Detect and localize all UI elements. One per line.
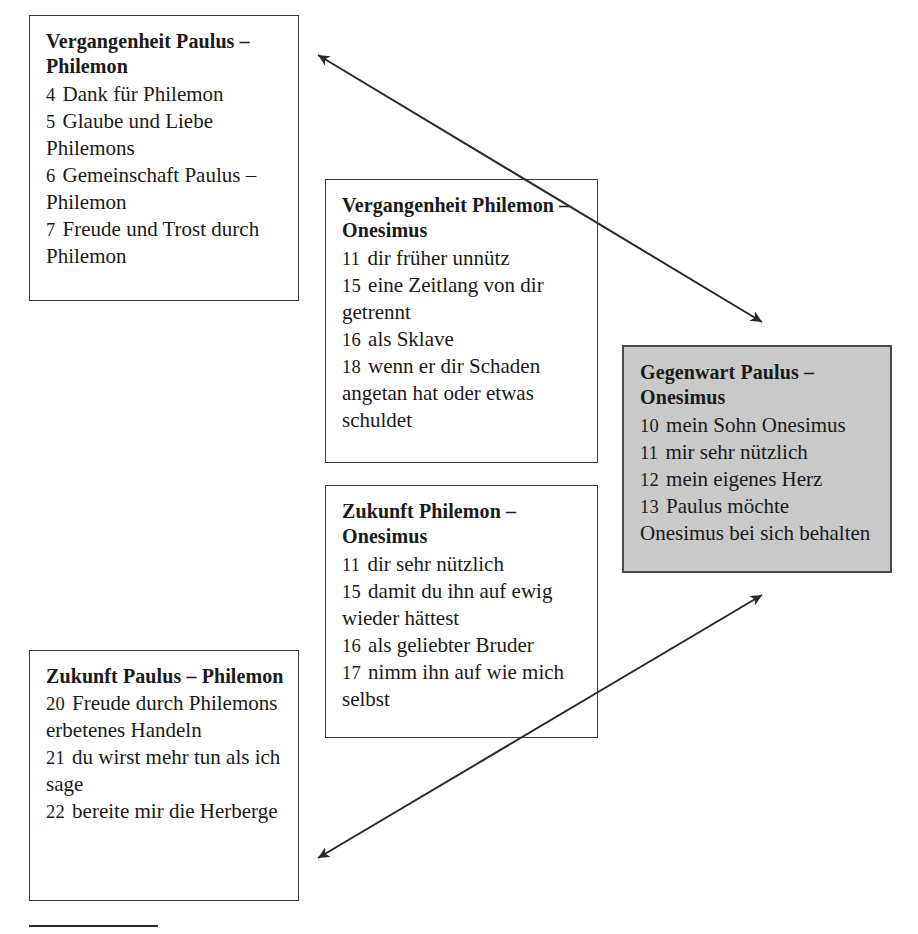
- list-item: 16als Sklave: [342, 326, 583, 353]
- verse-text: Paulus möchte Onesimus bei sich behalten: [640, 494, 870, 545]
- box-present-paulus-onesimus: Gegenwart Paulus – Onesimus 10mein Sohn …: [622, 345, 892, 573]
- verse-text: dir sehr nützlich: [367, 552, 503, 576]
- box-title: Gegenwart Paulus – Onesimus: [640, 360, 876, 411]
- verse-number: 15: [342, 582, 368, 602]
- list-item: 15eine Zeitlang von dir getrennt: [342, 272, 583, 326]
- verse-text: Dank für Philemon: [63, 82, 224, 106]
- box-entry-list: 20Freude durch Philemons erbetenes Hande…: [46, 690, 284, 825]
- verse-number: 7: [46, 220, 63, 240]
- verse-text: Freude durch Philemons erbetenes Handeln: [46, 691, 277, 742]
- list-item: 11mir sehr nützlich: [640, 439, 876, 466]
- list-item: 5Glaube und Liebe Philemons: [46, 108, 284, 162]
- verse-text: mein Sohn Onesimus: [666, 413, 846, 437]
- verse-text: Glaube und Liebe Philemons: [46, 109, 213, 160]
- verse-number: 13: [640, 497, 666, 517]
- list-item: 18wenn er dir Schaden angetan hat oder e…: [342, 353, 583, 434]
- verse-text: als Sklave: [368, 327, 454, 351]
- verse-text: damit du ihn auf ewig wieder hättest: [342, 579, 552, 630]
- verse-number: 21: [46, 748, 72, 768]
- verse-number: 4: [46, 85, 63, 105]
- footnote-separator-rule: [29, 925, 158, 927]
- list-item: 12mein eigenes Herz: [640, 466, 876, 493]
- verse-number: 15: [342, 276, 368, 296]
- box-title: Vergangenheit Philemon – Onesimus: [342, 193, 583, 244]
- verse-number: 22: [46, 802, 72, 822]
- box-entry-list: 11dir sehr nützlich 15damit du ihn auf e…: [342, 551, 583, 713]
- list-item: 10mein Sohn Onesimus: [640, 412, 876, 439]
- box-past-paulus-philemon: Vergangenheit Paulus – Philemon 4Dank fü…: [29, 15, 299, 301]
- verse-number: 11: [640, 443, 665, 463]
- box-title: Zukunft Philemon – Onesimus: [342, 499, 583, 550]
- verse-text: wenn er dir Schaden angetan hat oder etw…: [342, 354, 540, 432]
- list-item: 16als geliebter Bruder: [342, 632, 583, 659]
- list-item: 7Freude und Trost durch Philemon: [46, 216, 284, 270]
- list-item: 11dir sehr nützlich: [342, 551, 583, 578]
- box-entry-list: 10mein Sohn Onesimus 11mir sehr nützlich…: [640, 412, 876, 547]
- verse-text: dir früher unnütz: [367, 246, 509, 270]
- verse-number: 16: [342, 330, 368, 350]
- list-item: 17nimm ihn auf wie mich selbst: [342, 659, 583, 713]
- box-future-philemon-onesimus: Zukunft Philemon – Onesimus 11dir sehr n…: [325, 485, 598, 738]
- list-item: 21du wirst mehr tun als ich sage: [46, 744, 284, 798]
- box-title: Zukunft Paulus – Philemon: [46, 664, 284, 689]
- verse-text: du wirst mehr tun als ich sage: [46, 745, 280, 796]
- verse-number: 5: [46, 112, 63, 132]
- verse-number: 11: [342, 249, 367, 269]
- list-item: 13Paulus möchte Onesimus bei sich behalt…: [640, 493, 876, 547]
- box-title: Vergangenheit Paulus – Philemon: [46, 29, 284, 80]
- verse-number: 11: [342, 555, 367, 575]
- verse-number: 12: [640, 470, 666, 490]
- verse-number: 16: [342, 636, 368, 656]
- box-entry-list: 4Dank für Philemon 5Glaube und Liebe Phi…: [46, 81, 284, 270]
- box-entry-list: 11dir früher unnütz 15eine Zeitlang von …: [342, 245, 583, 434]
- verse-text: eine Zeitlang von dir getrennt: [342, 273, 544, 324]
- list-item: 20Freude durch Philemons erbetenes Hande…: [46, 690, 284, 744]
- verse-text: als geliebter Bruder: [368, 633, 534, 657]
- list-item: 11dir früher unnütz: [342, 245, 583, 272]
- list-item: 4Dank für Philemon: [46, 81, 284, 108]
- list-item: 22bereite mir die Herberge: [46, 798, 284, 825]
- verse-number: 20: [46, 694, 72, 714]
- verse-text: nimm ihn auf wie mich selbst: [342, 660, 564, 711]
- verse-number: 17: [342, 663, 368, 683]
- verse-number: 6: [46, 166, 63, 186]
- list-item: 15damit du ihn auf ewig wieder hättest: [342, 578, 583, 632]
- box-past-philemon-onesimus: Vergangenheit Philemon – Onesimus 11dir …: [325, 179, 598, 463]
- list-item: 6Gemeinschaft Paulus – Philemon: [46, 162, 284, 216]
- verse-text: Gemeinschaft Paulus – Philemon: [46, 163, 256, 214]
- diagram-canvas: Vergangenheit Paulus – Philemon 4Dank fü…: [0, 0, 918, 934]
- verse-text: Freude und Trost durch Philemon: [46, 217, 259, 268]
- verse-text: bereite mir die Herberge: [72, 799, 277, 823]
- verse-number: 10: [640, 416, 666, 436]
- box-future-paulus-philemon: Zukunft Paulus – Philemon 20Freude durch…: [29, 650, 299, 901]
- verse-text: mir sehr nützlich: [665, 440, 807, 464]
- verse-number: 18: [342, 357, 368, 377]
- verse-text: mein eigenes Herz: [666, 467, 822, 491]
